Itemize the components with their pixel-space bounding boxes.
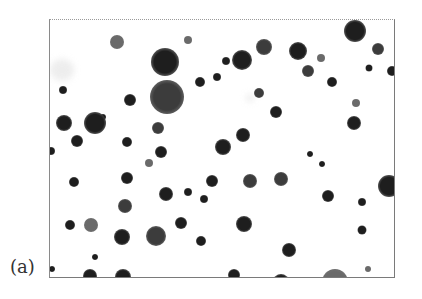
particle (358, 198, 366, 206)
particle (243, 174, 257, 188)
particle (115, 269, 131, 278)
particle (196, 236, 206, 246)
particle (322, 269, 348, 278)
particle (175, 217, 187, 229)
particle (387, 66, 395, 76)
particle (206, 175, 218, 187)
particle (347, 116, 361, 130)
particle (317, 54, 325, 62)
particle (232, 50, 252, 70)
particle (151, 48, 179, 76)
particle (49, 147, 55, 155)
particle (121, 172, 133, 184)
particle (59, 86, 67, 94)
particle (65, 220, 75, 230)
particle (92, 254, 98, 260)
particle (270, 106, 282, 118)
particle (319, 161, 325, 167)
particle (124, 94, 136, 106)
particle (358, 226, 367, 235)
particle (71, 135, 83, 147)
particle (372, 43, 384, 55)
particle (365, 266, 371, 272)
particle (152, 122, 164, 134)
particle (110, 35, 124, 49)
particle (352, 99, 360, 107)
particle (344, 20, 366, 42)
particle (146, 226, 166, 246)
background-haze (246, 94, 254, 102)
particle (274, 172, 288, 186)
particle (159, 187, 173, 201)
background-haze (50, 59, 74, 81)
particle (145, 159, 153, 167)
particle (322, 190, 334, 202)
particle (200, 195, 208, 203)
particle (302, 65, 314, 77)
particle (327, 77, 337, 87)
particle (114, 229, 130, 245)
particle (84, 218, 98, 232)
particle (236, 216, 252, 232)
particle (213, 73, 221, 81)
particle (49, 266, 55, 272)
particle (273, 274, 289, 278)
particle (289, 42, 307, 60)
particle (184, 188, 192, 196)
particle (228, 269, 240, 278)
panel-label: (a) (10, 256, 35, 277)
particle (83, 269, 97, 278)
particle (236, 128, 250, 142)
particle (118, 199, 132, 213)
particle (69, 177, 79, 187)
particle (282, 243, 296, 257)
particle (150, 80, 184, 114)
particle (307, 151, 313, 157)
particle (122, 137, 132, 147)
particle (378, 175, 395, 197)
particle (56, 115, 72, 131)
particle (215, 139, 231, 155)
particle (366, 65, 373, 72)
particle (184, 36, 192, 44)
particle (256, 39, 272, 55)
particle (155, 146, 167, 158)
particle (222, 57, 230, 65)
particle (195, 77, 205, 87)
particle (254, 88, 264, 98)
particle (84, 112, 106, 134)
micrograph-image (49, 19, 395, 278)
